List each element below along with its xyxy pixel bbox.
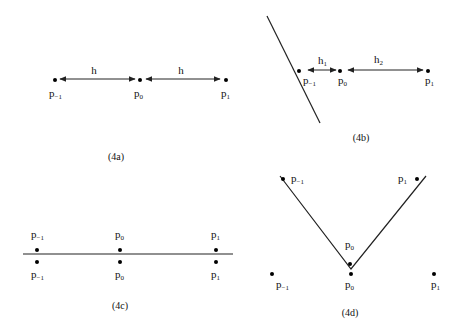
point-dot	[214, 248, 218, 252]
point-label: p1	[211, 268, 221, 282]
point-label: p0	[134, 87, 144, 101]
point-label: p1	[431, 278, 441, 292]
point-label: p−1	[31, 228, 44, 242]
panel-caption: (4a)	[108, 151, 124, 163]
point-dot	[270, 272, 274, 276]
point-dot	[297, 69, 301, 73]
spacing-label: h	[91, 64, 97, 76]
spacing-label: h2	[374, 53, 384, 67]
point-label: p0	[115, 228, 125, 242]
point-label: p−1	[276, 278, 289, 292]
point-label: p0	[115, 268, 125, 282]
point-label: p−1	[31, 268, 44, 282]
spacing-label: h1	[318, 54, 328, 68]
point-label: p1	[398, 172, 408, 186]
point-dot	[224, 78, 228, 82]
spacing-label: h	[178, 64, 184, 76]
point-label: p1	[221, 87, 231, 101]
point-label: p0	[345, 238, 355, 252]
point-dot	[214, 260, 218, 264]
point-dot	[349, 272, 353, 276]
panel-caption: (4d)	[342, 307, 359, 319]
point-dot	[426, 69, 430, 73]
point-dot	[118, 248, 122, 252]
point-label: p−1	[303, 74, 316, 88]
point-label: p1	[211, 228, 221, 242]
figure-canvas: h h p−1 p0 p1 (4a) h1 h2 p−1 p0 p1 (4b) …	[0, 0, 462, 333]
panel-caption: (4c)	[112, 300, 128, 312]
panel-caption: (4b)	[353, 132, 370, 144]
panel-4a: h h p−1 p0 p1 (4a)	[49, 64, 231, 163]
point-dot	[53, 78, 57, 82]
point-dot	[118, 260, 122, 264]
panel-4b: h1 h2 p−1 p0 p1 (4b)	[267, 16, 435, 144]
point-dot	[415, 177, 419, 181]
point-label: p1	[425, 74, 435, 88]
point-label: p−1	[291, 172, 304, 186]
panel-4d: p−1 p0 p1 p−1 p0 p1 (4d)	[270, 172, 441, 319]
point-dot	[338, 69, 342, 73]
point-dot	[35, 260, 39, 264]
point-dot	[35, 248, 39, 252]
point-label: p−1	[49, 87, 62, 101]
panel-4c: p−1 p0 p1 p−1 p0 p1 (4c)	[23, 228, 233, 312]
point-dot	[138, 78, 142, 82]
point-dot	[348, 262, 352, 266]
v-boundary	[280, 176, 426, 269]
point-dot	[432, 272, 436, 276]
point-label: p0	[345, 278, 355, 292]
point-label: p0	[338, 74, 348, 88]
point-dot	[281, 177, 285, 181]
